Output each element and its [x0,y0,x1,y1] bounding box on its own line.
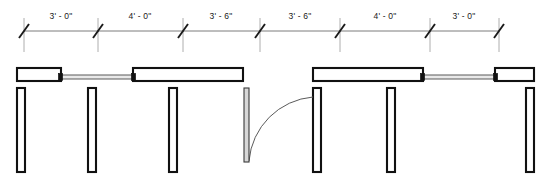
dimension-label-3: 3' - 6" [209,11,232,21]
dimension-text-group: 3' - 0"4' - 0"3' - 6"3' - 6"4' - 0"3' - … [49,11,475,21]
window-right [423,75,495,79]
door-leaf [244,88,249,162]
floor-plan-drawing: 3' - 0"4' - 0"3' - 6"3' - 6"4' - 0"3' - … [0,0,553,182]
head-wall-left-outer [17,68,61,81]
fin-wall-left-end [17,88,25,172]
dimension-label-6: 3' - 0" [452,11,475,21]
head-wall-right-outer [495,68,534,81]
fin-wall-left-jamb [169,88,177,172]
door-group [244,88,313,162]
dimension-label-1: 3' - 0" [49,11,72,21]
architectural-plan-canvas: 3' - 0"4' - 0"3' - 6"3' - 6"4' - 0"3' - … [0,0,553,182]
wall-group [17,68,534,172]
window-left-jamb-start [59,74,63,81]
dimension-label-2: 4' - 0" [128,11,151,21]
window-left [61,75,133,79]
fin-wall-right-jamb [313,88,321,172]
head-wall-right-inner [313,68,423,81]
door-swing-arc [249,97,313,161]
window-group [59,74,498,81]
fin-wall-right-mid [387,88,395,172]
head-wall-left-inner [133,68,243,81]
window-right-jamb-end [494,74,498,81]
fin-wall-left-mid [88,88,96,172]
window-left-jamb-end [132,74,136,81]
dimension-label-4: 3' - 6" [288,11,311,21]
dimension-label-5: 4' - 0" [373,11,396,21]
window-right-jamb-start [421,74,425,81]
fin-wall-right-end [526,88,534,172]
